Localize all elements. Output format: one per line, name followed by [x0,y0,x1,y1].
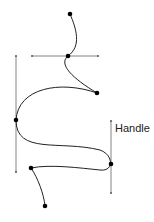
bezier-diagram: Handle [0,0,154,222]
anchor-point[interactable] [68,12,73,17]
handle-end-dot[interactable] [31,55,33,57]
anchor-point[interactable] [66,54,71,59]
handle-end-dot[interactable] [110,192,112,194]
anchor-point[interactable] [95,91,100,96]
handle-endpoints [15,55,112,194]
handle-end-dot[interactable] [97,55,99,57]
anchor-point[interactable] [109,162,114,167]
handle-end-dot[interactable] [15,55,17,57]
anchor-point[interactable] [14,118,19,123]
handle-label: Handle [115,122,150,134]
handle-end-dot[interactable] [110,120,112,122]
handle-end-dot[interactable] [15,171,17,173]
anchor-points [14,12,114,209]
handle-lines [16,56,111,193]
anchor-point[interactable] [29,166,34,171]
anchor-point[interactable] [43,204,48,209]
bezier-curve[interactable] [16,14,111,206]
